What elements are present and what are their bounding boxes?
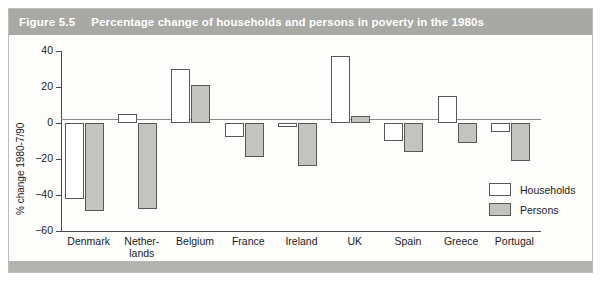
bar-group	[435, 45, 488, 231]
axes: 40200−20−40−60	[61, 45, 541, 235]
bar-households	[171, 69, 190, 123]
y-tick-neg40: −40	[56, 195, 61, 196]
x-category-label: Portugal	[482, 235, 546, 247]
y-tick-20: 20	[56, 87, 61, 88]
bar-households	[384, 123, 403, 141]
y-tick-label: −60	[27, 224, 53, 236]
legend-label-households: Households	[520, 184, 575, 196]
bar-persons	[298, 123, 317, 166]
bar-households	[225, 123, 244, 137]
bar-group	[168, 45, 221, 231]
bar-persons	[191, 85, 210, 123]
bar-households	[118, 114, 137, 123]
bar-groups	[62, 45, 541, 231]
bar-persons	[458, 123, 477, 143]
y-tick-0: 0	[56, 123, 61, 124]
figure-card: Figure 5.5 Percentage change of househol…	[8, 8, 593, 273]
legend-label-persons: Persons	[520, 204, 559, 216]
y-tick-label: −40	[27, 188, 53, 200]
bar-group	[381, 45, 434, 231]
plot-area: % change 1980-7/90 40200−20−40−60 Denmar…	[9, 35, 592, 261]
bar-persons	[351, 116, 370, 123]
bar-group	[62, 45, 115, 231]
x-axis-line	[61, 231, 541, 232]
bar-households	[331, 56, 350, 123]
y-tick-neg20: −20	[56, 159, 61, 160]
legend-item-households: Households	[489, 183, 575, 196]
legend-swatch-households-icon	[489, 183, 511, 196]
figure-number: Figure 5.5	[19, 16, 75, 28]
figure-title-bar: Figure 5.5 Percentage change of househol…	[9, 9, 592, 35]
figure-caption: Percentage change of households and pers…	[91, 16, 484, 28]
bar-group	[222, 45, 275, 231]
y-tick-label: 20	[27, 80, 53, 92]
bar-persons	[511, 123, 530, 161]
y-tick-label: 0	[27, 116, 53, 128]
bar-persons	[138, 123, 157, 209]
bar-households	[65, 123, 84, 199]
bar-persons	[404, 123, 423, 152]
y-tick-label: −20	[27, 152, 53, 164]
bar-persons	[245, 123, 264, 157]
figure-screenshot: Figure 5.5 Percentage change of househol…	[0, 0, 601, 281]
bar-households	[491, 123, 510, 132]
bar-group	[275, 45, 328, 231]
bar-households	[438, 96, 457, 123]
chart-legend: Households Persons	[489, 183, 575, 223]
legend-item-persons: Persons	[489, 203, 575, 216]
bar-households	[278, 123, 297, 127]
bar-group	[328, 45, 381, 231]
bar-persons	[85, 123, 104, 211]
bar-group	[115, 45, 168, 231]
y-tick-label: 40	[27, 44, 53, 56]
legend-swatch-persons-icon	[489, 203, 511, 216]
figure-bottom-strip	[9, 261, 592, 272]
y-tick-40: 40	[56, 51, 61, 52]
y-tick-neg60: −60	[56, 231, 61, 232]
